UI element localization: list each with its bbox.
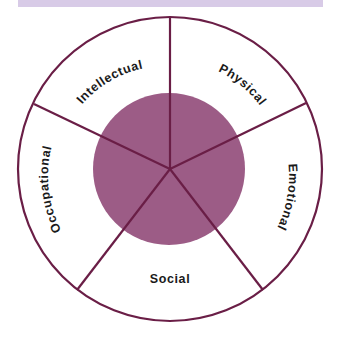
wellness-wheel: Intellectual Physical Emotional Social O… <box>0 0 337 342</box>
segment-social: Social <box>150 272 190 286</box>
